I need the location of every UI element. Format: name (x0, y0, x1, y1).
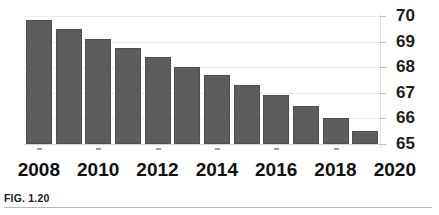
x-axis-tick-mark (334, 148, 339, 150)
bar-2015 (234, 85, 260, 144)
x-axis-tick-mark (96, 148, 101, 150)
bar-2009 (56, 29, 82, 144)
bar-2010 (85, 39, 111, 144)
gridline-65 (24, 144, 380, 145)
x-axis-tick-label-2016: 2016 (246, 160, 306, 181)
bar-2018 (323, 118, 349, 144)
y-axis-tick-mark (380, 93, 386, 94)
bar-2008 (26, 20, 52, 144)
y-axis-tick-label: 66 (396, 109, 432, 126)
x-axis-tick-label-2020: 2020 (365, 160, 425, 181)
x-axis-tick-label-2012: 2012 (128, 160, 188, 181)
x-axis-tick-mark (215, 148, 220, 150)
x-axis-tick-mark (156, 148, 161, 150)
bar-2016 (263, 95, 289, 144)
y-axis-tick-label: 69 (396, 33, 432, 50)
y-axis-tick-label: 65 (396, 135, 432, 152)
y-axis-tick-mark (380, 67, 386, 68)
x-axis-tick-mark (37, 148, 42, 150)
y-axis-tick-mark (380, 16, 386, 17)
bar-series (24, 16, 380, 144)
bar-2014 (204, 75, 230, 144)
bar-2019 (352, 131, 378, 144)
x-axis-tick-label-2008: 2008 (9, 160, 69, 181)
figure-container: 656667686970 200820102012201420162018202… (0, 0, 439, 215)
y-axis-spine (380, 14, 381, 148)
x-axis-tick-label-2010: 2010 (68, 160, 128, 181)
x-axis: 2008201020122014201620182020 (0, 160, 400, 186)
y-axis-tick-label: 68 (396, 58, 432, 75)
x-axis-tick-label-2014: 2014 (187, 160, 247, 181)
y-axis: 656667686970 (396, 0, 438, 160)
y-axis-tick-label: 70 (396, 7, 432, 24)
x-axis-tick-label-2018: 2018 (306, 160, 366, 181)
figure-caption: FIG. 1.20 (4, 192, 50, 204)
bar-2017 (293, 106, 319, 144)
y-axis-tick-mark (380, 118, 386, 119)
y-axis-tick-mark (380, 42, 386, 43)
plot-area (24, 16, 380, 144)
y-axis-tick-label: 67 (396, 84, 432, 101)
y-axis-tick-mark (380, 144, 386, 145)
bar-2011 (115, 48, 141, 144)
x-axis-tick-mark (274, 148, 279, 150)
bar-2012 (145, 57, 171, 144)
bar-2013 (174, 67, 200, 144)
caption-divider (4, 207, 432, 208)
